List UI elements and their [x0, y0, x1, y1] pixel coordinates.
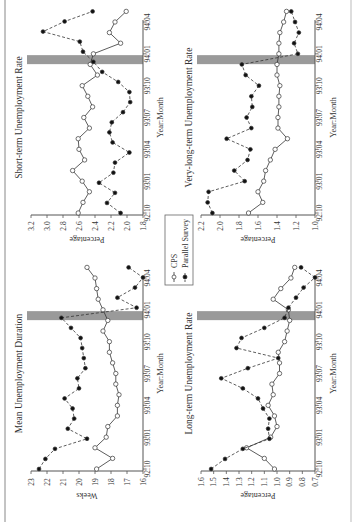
- cps-point: [76, 137, 80, 141]
- value-axis-label: Percentage: [240, 491, 276, 500]
- chart-panel-short-term-unemployment-rate: 1.82.02.22.42.62.83.03.2Percentage92:109…: [14, 9, 165, 244]
- time-tick-label: 93:01: [143, 428, 152, 445]
- cps-point: [262, 456, 266, 460]
- value-tick-label: 2.8: [59, 221, 68, 231]
- cps-point: [277, 41, 281, 45]
- parallel-survey-point: [105, 201, 109, 205]
- cps-point: [110, 456, 114, 460]
- parallel-survey-point: [223, 457, 227, 461]
- parallel-survey-point: [294, 296, 298, 300]
- parallel-survey-point: [266, 427, 270, 431]
- time-tick-label: 93:07: [143, 365, 152, 382]
- cps-point: [276, 350, 280, 354]
- value-tick-label: 1.2: [292, 221, 301, 231]
- time-tick-label: 94:01: [143, 45, 152, 62]
- parallel-survey-point: [209, 467, 213, 471]
- parallel-survey-point: [127, 265, 131, 269]
- time-axis-label: Year:Month: [155, 352, 165, 393]
- parallel-survey-point: [133, 286, 137, 290]
- value-tick-label: 1.6: [197, 477, 206, 487]
- parallel-survey-point: [127, 151, 131, 155]
- parallel-survey-point: [76, 376, 80, 380]
- value-axis-label: Weeks: [76, 491, 97, 500]
- parallel-survey-point: [77, 386, 81, 390]
- parallel-survey-point: [296, 52, 300, 56]
- value-tick-label: 20: [75, 478, 84, 486]
- value-tick-label: 1.1: [260, 477, 269, 487]
- parallel-survey-point: [232, 169, 236, 173]
- cps-point: [76, 211, 80, 215]
- value-tick-label: 18: [107, 478, 116, 486]
- cps-point: [94, 467, 98, 471]
- value-tick-label: 19: [91, 478, 100, 486]
- parallel-survey-point: [63, 397, 67, 401]
- shaded-period: [27, 55, 143, 64]
- time-tick-label: 92:10: [315, 460, 324, 477]
- panel-title: Mean Unemployment Duration: [14, 314, 24, 434]
- parallel-survey-point: [256, 397, 260, 401]
- cps-point: [275, 73, 279, 77]
- cps-point: [285, 329, 289, 333]
- time-tick-label: 94:01: [315, 45, 324, 62]
- value-axis-label: Percentage: [69, 235, 105, 244]
- cps-point: [82, 158, 86, 162]
- cps-line: [87, 267, 119, 469]
- parallel-survey-point: [235, 346, 239, 350]
- cps-point: [277, 105, 281, 109]
- value-tick-label: 1.4: [222, 477, 231, 487]
- parallel-survey-point: [245, 116, 249, 120]
- cps-point: [114, 371, 118, 375]
- parallel-survey-point: [250, 105, 254, 109]
- time-axis-label: Year:Month: [328, 352, 338, 393]
- cps-point: [77, 147, 81, 151]
- parallel-survey-point: [297, 31, 301, 35]
- parallel-survey-point: [211, 211, 215, 215]
- value-tick-label: 17: [123, 478, 132, 486]
- parallel-survey-point: [299, 265, 303, 269]
- cps-point: [246, 211, 250, 215]
- cps-point: [285, 137, 289, 141]
- value-tick-label: 2.0: [216, 221, 225, 231]
- parallel-survey-point: [53, 447, 57, 451]
- parallel-survey-point: [262, 326, 266, 330]
- cps-point: [80, 83, 84, 87]
- cps-point: [256, 190, 260, 194]
- panel-title: Short-term Unemployment Rate: [14, 56, 24, 178]
- cps-point: [270, 382, 274, 386]
- cps-point: [87, 126, 91, 130]
- value-tick-label: 1.3: [235, 477, 244, 487]
- parallel-survey-point: [128, 100, 132, 104]
- parallel-survey-point: [249, 147, 253, 151]
- legend: CPSParallel Survey: [165, 215, 193, 285]
- cps-point: [277, 94, 281, 98]
- value-tick-label: 16: [139, 478, 148, 486]
- value-tick-label: 2.2: [107, 221, 116, 231]
- legend-filled-circle-icon: [183, 275, 187, 279]
- cps-point: [85, 265, 89, 269]
- time-tick-label: 93:04: [315, 141, 324, 158]
- panel-title: Long-term Unemployment Rate: [184, 313, 194, 435]
- parallel-survey-point: [113, 161, 117, 165]
- cps-point: [90, 105, 94, 109]
- value-tick-label: 2.4: [91, 221, 100, 231]
- cps-point: [275, 62, 279, 66]
- time-tick-label: 92:10: [143, 460, 152, 477]
- parallel-survey-point: [92, 60, 96, 64]
- time-tick-label: 92:10: [315, 204, 324, 221]
- value-tick-label: 21: [59, 478, 68, 486]
- legend-label: CPS: [170, 254, 179, 268]
- parallel-survey-point: [276, 356, 280, 360]
- cps-point: [114, 382, 118, 386]
- parallel-survey-point: [44, 457, 48, 461]
- value-tick-label: 2.0: [123, 221, 132, 231]
- time-tick-label: 94:04: [143, 13, 152, 30]
- time-axis-label: Year:Month: [328, 96, 338, 137]
- parallel-survey-point: [268, 437, 272, 441]
- cps-point: [272, 467, 276, 471]
- parallel-survey-point: [66, 427, 70, 431]
- value-tick-label: 0.9: [285, 477, 294, 487]
- parallel-survey-point: [249, 94, 253, 98]
- cps-point: [101, 308, 105, 312]
- cps-point: [110, 361, 114, 365]
- value-tick-label: 0.8: [298, 477, 307, 487]
